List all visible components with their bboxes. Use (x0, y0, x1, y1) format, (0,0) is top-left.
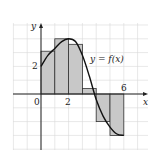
curve-label: y = f(x) (89, 54, 124, 64)
y-axis-label: y (30, 21, 37, 31)
x-axis-label: x (143, 97, 148, 107)
x-tick-2: 2 (65, 97, 71, 107)
y-axis-arrow-icon (39, 23, 43, 28)
riemann-rect-1 (41, 51, 55, 94)
x-tick-6: 6 (121, 83, 127, 93)
y-tick-2: 2 (32, 61, 38, 71)
x-tick-0: 0 (34, 97, 40, 107)
riemann-sum-chart: y x 0 2 6 2 y = f(x) (0, 0, 155, 159)
x-axis-arrow-icon (143, 92, 148, 96)
